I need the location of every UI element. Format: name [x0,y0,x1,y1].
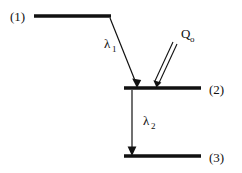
q-zero-shaft-outer [159,44,178,84]
transition-q-zero: Q o [153,26,195,88]
transition-lambda-1: λ 1 [104,18,141,88]
level-label-3: (3) [209,150,224,165]
level-group-3: (3) [124,150,224,165]
lambda-2-symbol: λ [143,113,150,128]
diagram-canvas: (1) (2) (3) λ 1 λ 2 Q [0,0,242,173]
q-zero-subscript: o [190,34,195,44]
level-label-1: (1) [10,9,25,24]
level-group-1: (1) [10,9,111,24]
lambda-1-subscript: 1 [112,44,117,54]
transition-lambda-2: λ 2 [128,90,156,156]
level-label-2: (2) [209,82,224,97]
lambda-2-subscript: 2 [151,121,156,131]
q-zero-shaft-inner [155,42,174,82]
level-group-2: (2) [124,82,224,97]
lambda-1-symbol: λ [104,36,111,51]
energy-level-diagram: (1) (2) (3) λ 1 λ 2 Q [0,0,242,173]
